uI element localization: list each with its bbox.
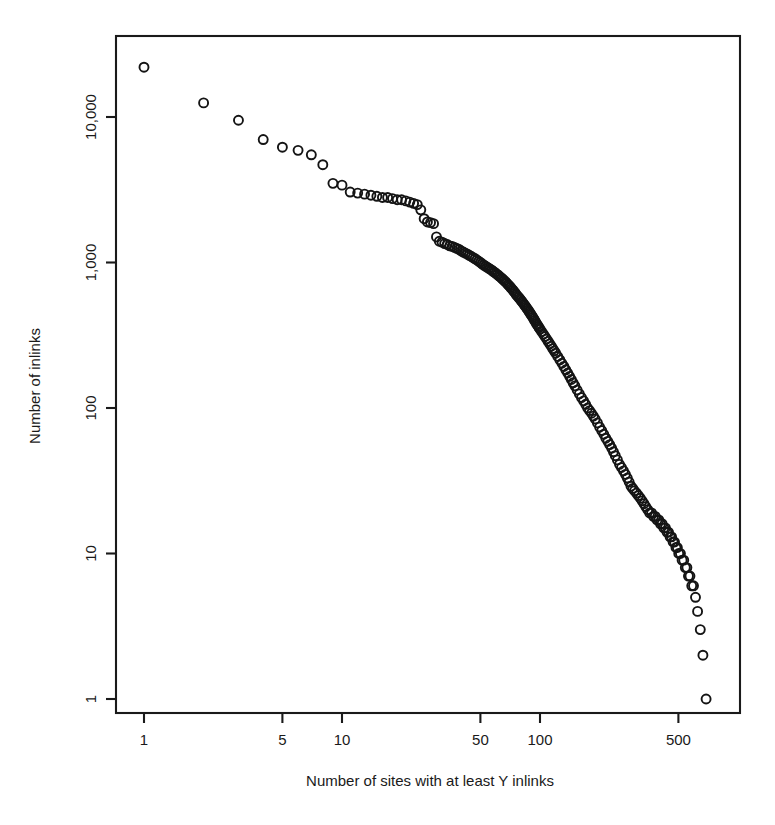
y-axis-title: Number of inlinks (26, 328, 43, 444)
x-tick-label: 10 (334, 731, 351, 748)
x-tick-label: 1 (140, 731, 148, 748)
y-tick-label: 1,000 (82, 244, 99, 282)
x-tick-label: 5 (278, 731, 286, 748)
y-tick-label: 100 (82, 395, 99, 420)
chart-page: 151050100500 1101001,00010,000 Number of… (0, 0, 775, 825)
y-tick-label: 10 (82, 545, 99, 562)
y-tick-label: 1 (82, 695, 99, 703)
y-tick-label: 10,000 (82, 94, 99, 140)
x-axis-title: Number of sites with at least Y inlinks (306, 772, 554, 789)
x-tick-label: 500 (666, 731, 691, 748)
scatter-plot: 151050100500 1101001,00010,000 Number of… (0, 0, 775, 825)
x-tick-label: 50 (472, 731, 489, 748)
x-tick-label: 100 (527, 731, 552, 748)
